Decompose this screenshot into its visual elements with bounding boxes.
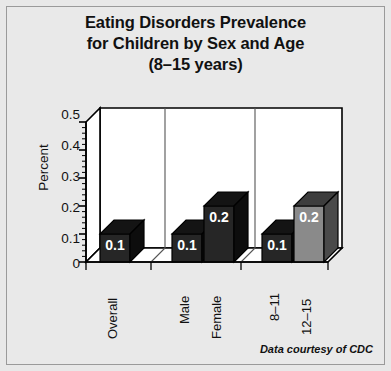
bar-value-age-12-15: 0.2 [290, 210, 328, 224]
chart-figure: Eating Disorders Prevalence for Children… [0, 0, 391, 371]
bar-value-female: 0.2 [200, 210, 238, 224]
bar-age-12-15 [294, 192, 338, 262]
x-category-male: Male [177, 296, 192, 324]
y-tick-label: 0 [46, 257, 80, 271]
y-tick-label: 0.2 [46, 201, 80, 215]
y-tick-label: 0.3 [46, 170, 80, 184]
bar-value-male: 0.1 [168, 238, 206, 252]
bar-value-age-8-11: 0.1 [258, 238, 296, 252]
y-tick-label: 0.4 [46, 139, 80, 153]
source-credit: Data courtesy of CDC [260, 343, 373, 355]
bar-female [204, 192, 248, 262]
x-category-female: Female [209, 296, 224, 339]
y-tick-label: 0.5 [46, 108, 80, 122]
x-category-age-12-15: 12–15 [299, 299, 314, 335]
x-category-overall: Overall [105, 298, 120, 339]
y-axis-tick-labels: 0.5 0.4 0.3 0.2 0.1 0 [42, 0, 80, 371]
plot-area: 0.1 0.1 0.2 0.1 0.2 [86, 108, 342, 263]
bar-series [86, 108, 342, 283]
bar-value-overall: 0.1 [96, 238, 134, 252]
x-category-age-8-11: 8–11 [267, 293, 282, 321]
y-tick-label: 0.1 [46, 232, 80, 246]
